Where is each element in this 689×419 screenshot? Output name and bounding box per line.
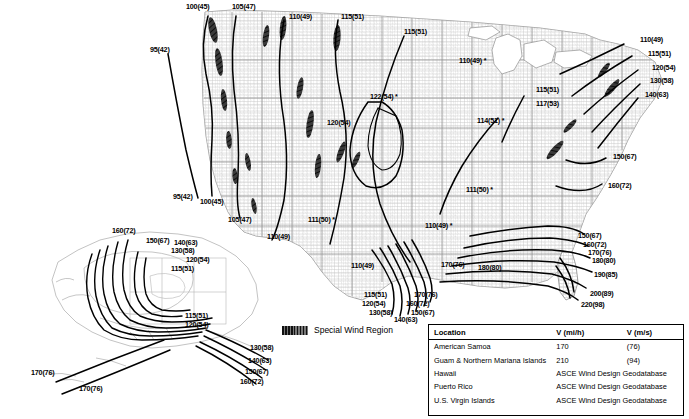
contour-label-11049: 110(49) [267, 233, 290, 240]
contour-label-18080: 180(80) [592, 257, 615, 264]
alaska-inset [48, 232, 268, 394]
contour-label-10547: 105(47) [232, 3, 255, 10]
cell-location: U.S. Virgin Islands [429, 394, 551, 407]
territories-wind-speed-table: Location V (mi/h) V (m/s) American Samoa… [428, 324, 684, 416]
contour-label-19085: 190(85) [594, 271, 617, 278]
contour-label-ak-11551: 115(51) [171, 265, 194, 272]
contour-label-11551: 115(51) [648, 50, 671, 57]
cell-geodatabase-note: ASCE Wind Design Geodatabase [551, 380, 683, 393]
contour-label-14063: 140(63) [645, 91, 668, 98]
table-row: American Samoa170(76) [429, 340, 683, 354]
contour-label-ak-16072: 160(72) [240, 378, 263, 385]
contour-label-11551: 115(51) [404, 28, 427, 35]
contour-label-15067: 150(67) [411, 309, 434, 316]
contour-label-11451: 114(51) [477, 117, 504, 124]
cell-location: Guam & Northern Mariana Islands [429, 353, 551, 366]
cell-geodatabase-note: ASCE Wind Design Geodatabase [551, 394, 683, 407]
column-header-ms: V (m/s) [622, 325, 683, 340]
contour-label-9542: 95(42) [150, 46, 170, 53]
contour-label-11150: 111(50) [466, 186, 493, 193]
contour-label-11551: 115(51) [364, 291, 387, 298]
table-row: U.S. Virgin IslandsASCE Wind Design Geod… [429, 394, 683, 407]
cell-geodatabase-note: ASCE Wind Design Geodatabase [551, 367, 683, 380]
table-row: Guam & Northern Mariana Islands210(94) [429, 353, 683, 366]
wind-speed-map: 100(45)105(47)110(49)115(51)115(51)110(4… [0, 0, 689, 419]
contour-label-11049: 110(49) [459, 57, 486, 64]
contour-label-11551: 115(51) [536, 86, 559, 93]
contour-label-16072: 160(72) [608, 182, 631, 189]
contour-label-12054: 120(54) [327, 119, 350, 126]
cell-location: Puerto Rico [429, 380, 551, 393]
contour-label-13058: 130(58) [369, 309, 392, 316]
cell-speed-mih: 170 [551, 340, 621, 354]
map-legend: Special Wind Region [282, 325, 393, 335]
special-wind-region-label: Special Wind Region [314, 325, 393, 335]
contour-label-10045: 100(45) [186, 3, 209, 10]
contour-label-12054: 120(54) [652, 64, 675, 71]
contour-label-15067: 150(67) [613, 153, 636, 160]
contour-label-13058: 130(58) [650, 77, 673, 84]
contour-label-12054: 120(54) [362, 300, 385, 307]
contour-label-11753: 117(53) [536, 100, 559, 107]
contour-label-ak-11551: 115(51) [185, 312, 208, 319]
cell-location: American Samoa [429, 340, 551, 354]
contour-label-22098: 220(98) [581, 301, 604, 308]
contour-label-10045: 100(45) [200, 198, 223, 205]
table-row: Puerto RicoASCE Wind Design Geodatabase [429, 380, 683, 393]
contour-label-9542: 95(42) [173, 193, 193, 200]
special-wind-region-swatch [282, 326, 308, 335]
contour-label-10547: 105(47) [228, 216, 251, 223]
contour-label-11049: 110(49) [351, 262, 374, 269]
contour-label-ak-13058: 130(58) [250, 344, 273, 351]
contour-label-20089: 200(89) [590, 290, 613, 297]
table-body: American Samoa170(76)Guam & Northern Mar… [429, 340, 683, 407]
contour-label-ak-16072: 160(72) [112, 227, 135, 234]
contour-label-11049: 110(49) [640, 36, 663, 43]
contour-label-ak-17076: 170(76) [79, 385, 102, 392]
column-header-location: Location [429, 325, 551, 340]
contour-label-ak-13058: 130(58) [171, 247, 194, 254]
contour-label-ak-14063: 140(63) [248, 357, 271, 364]
table-header-row: Location V (mi/h) V (m/s) [429, 325, 683, 340]
contour-label-ak-12054: 120(54) [186, 256, 209, 263]
contour-label-ak-17076: 170(76) [31, 369, 54, 376]
contour-label-17076: 170(76) [441, 261, 464, 268]
cell-location: Hawaii [429, 367, 551, 380]
contour-label-11551: 115(51) [341, 13, 364, 20]
contour-label-ak-15067: 150(67) [146, 237, 169, 244]
contour-label-15067: 150(67) [578, 232, 601, 239]
cell-speed-mih: 210 [551, 353, 621, 366]
contour-label-14063: 140(63) [394, 316, 417, 323]
contour-label-17076: 170(76) [414, 291, 437, 298]
table-row: HawaiiASCE Wind Design Geodatabase [429, 367, 683, 380]
contour-label-ak-15067: 150(67) [245, 368, 268, 375]
contour-label-11150: 111(50) [308, 216, 335, 223]
contour-label-ak-12054: 120(54) [185, 321, 208, 328]
contour-label-11049: 110(49) [425, 222, 452, 229]
contour-label-18080: 180(80) [478, 264, 501, 271]
contour-label-12254: 122(54) [370, 93, 398, 100]
contour-label-11049: 110(49) [289, 13, 312, 20]
cell-speed-ms: (94) [622, 353, 683, 366]
contour-label-16072: 160(72) [406, 300, 429, 307]
cell-speed-ms: (76) [622, 340, 683, 354]
column-header-mih: V (mi/h) [551, 325, 621, 340]
